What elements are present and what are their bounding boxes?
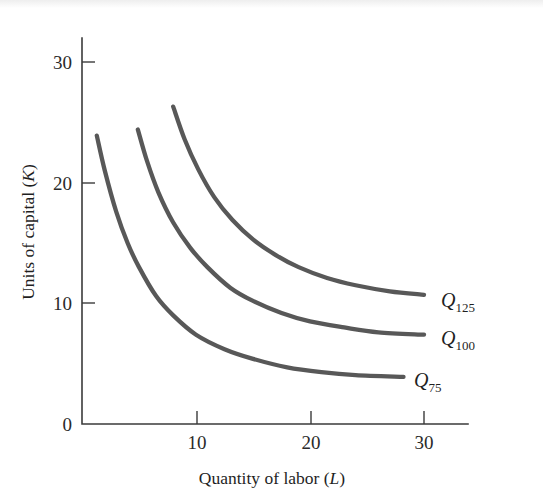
curve-label-q125-sub: 125 [455, 300, 475, 315]
isoquant-curve-q75 [97, 136, 404, 377]
svg-text:Units of capital (K): Units of capital (K) [18, 164, 38, 300]
x-axis-title-variable: L [329, 468, 340, 488]
svg-text:Quantity of labor (L): Quantity of labor (L) [199, 468, 345, 488]
x-axis-title-main: Quantity of labor ( [199, 468, 330, 488]
plot-area: 30 20 10 0 10 20 30 Quantity of labor (L… [0, 0, 543, 504]
x-axis-title: Quantity of labor (L) [199, 468, 345, 488]
x-tick-label-30: 30 [415, 432, 434, 453]
y-tick-label-30: 30 [53, 52, 72, 73]
curve-label-q75-sub: 75 [428, 380, 441, 395]
curve-label-q100-sub: 100 [455, 338, 475, 353]
isoquant-curve-q100 [138, 130, 424, 335]
y-axis-ticks [82, 62, 95, 303]
curve-label-q75-base: Q [414, 369, 429, 391]
curve-label-q125-base: Q [441, 289, 456, 311]
y-axis-title-main: Units of capital ( [18, 182, 38, 300]
isoquant-curve-q125 [173, 107, 424, 295]
curve-label-q125: Q125 [441, 289, 475, 315]
x-axis-ticks [197, 411, 424, 424]
x-axis-title-close: ) [339, 468, 345, 488]
x-tick-label-10: 10 [188, 432, 207, 453]
y-axis-title-close: ) [18, 164, 38, 170]
x-tick-label-20: 20 [302, 432, 321, 453]
curve-label-q100: Q100 [441, 327, 475, 353]
curve-label-q75: Q75 [414, 369, 441, 395]
y-axis-title: Units of capital (K) [18, 164, 38, 300]
y-tick-label-10: 10 [53, 293, 72, 314]
y-tick-label-20: 20 [53, 173, 72, 194]
curve-label-q100-base: Q [441, 327, 456, 349]
y-tick-label-0: 0 [63, 414, 73, 435]
isoquant-chart-figure: 30 20 10 0 10 20 30 Quantity of labor (L… [0, 0, 543, 504]
